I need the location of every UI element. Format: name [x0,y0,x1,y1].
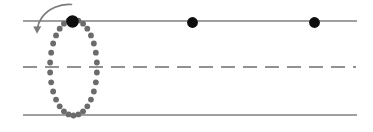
loop-dot [84,103,90,109]
loop-dot [93,50,99,56]
loop-dot [57,103,63,109]
arrow-head-icon [33,26,41,34]
arrow-curve-icon [37,4,71,29]
loop-dot [84,26,90,32]
loop-dot [91,41,97,47]
loop-dot [93,79,99,85]
loop-dot [50,41,56,47]
loop-dot [75,112,81,118]
loop-dot [47,70,53,76]
loop-dot [94,60,100,66]
counterclockwise-direction-arrow [33,4,71,33]
loop-dot [57,26,63,32]
trajectory-diagram-svg: Dotted loop trajectory crossing three ho… [0,0,373,132]
loop-dot [47,60,53,66]
loop-dot [61,108,67,114]
loop-dot [48,79,54,85]
loop-dot [88,32,94,38]
reference-lines-group [23,21,357,115]
marker-middle [187,17,198,28]
marker-on-loop-top [66,15,78,27]
marker-right [309,17,320,28]
loop-dot [91,89,97,95]
loop-dot [53,97,59,103]
loop-dot [48,50,54,56]
loop-dot [71,113,77,119]
loop-dot [80,21,86,27]
loop-dot [88,97,94,103]
loop-dot [53,32,59,38]
figure-canvas: Dotted loop trajectory crossing three ho… [0,0,373,132]
loop-dot [94,70,100,76]
loop-dot [50,89,56,95]
